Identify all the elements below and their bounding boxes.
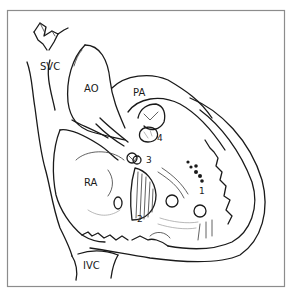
pulmonary-artery	[112, 76, 225, 150]
ra-small-oval	[114, 197, 122, 209]
ventricle-circle-b	[194, 205, 206, 217]
hatched-region	[131, 168, 156, 220]
label-ra: RA	[84, 177, 98, 188]
label-ivc: IVC	[83, 260, 100, 271]
heart-diagram: SVC AO PA RA IVC 4 3 2 1	[0, 0, 293, 295]
dots-cluster-1	[186, 160, 203, 182]
diagram-frame	[8, 11, 285, 287]
svc-vessel	[27, 60, 72, 256]
trabecular-lines	[150, 168, 212, 240]
valve-cluster-3	[127, 153, 141, 164]
marker-4: 4	[157, 133, 163, 143]
label-ao: AO	[84, 83, 99, 94]
label-pa: PA	[133, 87, 145, 98]
marker-3: 3	[146, 155, 152, 165]
marker-1: 1	[199, 186, 205, 196]
label-svc: SVC	[40, 61, 60, 72]
vessel-stumps	[34, 23, 68, 50]
marker-2: 2	[137, 214, 143, 224]
ventricle-outline	[90, 98, 265, 262]
ventricle-circle-a	[166, 195, 178, 207]
